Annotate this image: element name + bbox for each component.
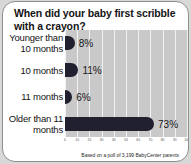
x-axis-tick-label: 90 [173,138,177,142]
chart-bar [65,36,75,50]
chart-bar [65,117,154,131]
chart-bar [65,90,72,104]
x-axis-tick-label: 40 [112,138,116,142]
category-label: Older than 11 months [5,113,63,135]
x-axis-tick-label: 20 [88,138,92,142]
chart-bar [65,63,78,77]
page-title: When did your baby first scribble with a… [14,7,182,32]
bar-value-label: 11% [82,65,101,76]
bar-value-label: 8% [79,38,93,49]
gridline [187,30,188,137]
chart-source-note: Based on a poll of 3,199 BabyCenter pare… [81,152,179,158]
x-axis-tick-label: 100 [184,138,189,142]
x-axis: 0102030405060708090100 [65,138,187,146]
x-axis-tick-label: 10 [75,138,79,142]
chart-bar-row: 11% [65,57,187,84]
x-axis-tick-label: 50 [124,138,128,142]
chart-bar-row: 73% [65,110,187,137]
x-axis-tick-label: 80 [161,138,165,142]
chart-bar-row: 6% [65,84,187,111]
bar-value-label: 73% [158,118,178,129]
x-axis-tick-label: 0 [64,138,66,142]
poll-result-card: When did your baby first scribble with a… [2,1,189,162]
x-axis-tick-label: 30 [100,138,104,142]
category-label: Younger than 10 months [5,32,63,54]
category-label: 10 months [5,65,63,76]
x-axis-tick-label: 60 [136,138,140,142]
category-label: 11 months [5,91,63,102]
chart-plot-area: 8%11%6%73% [65,30,187,137]
chart-bar-row: 8% [65,30,187,57]
bar-value-label: 6% [76,91,90,102]
x-axis-tick-label: 70 [149,138,153,142]
